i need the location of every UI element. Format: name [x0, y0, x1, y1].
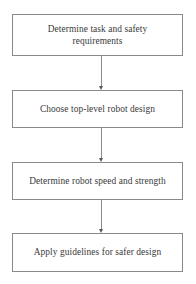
- flowchart-node-apply-guidelines-for-safer-design: Apply guidelines for safer design: [12, 233, 183, 272]
- flowchart-node-label: Determine robot speed and strength: [24, 175, 171, 187]
- connector-line: [101, 200, 102, 229]
- flowchart-connector-arrow-2: [97, 128, 106, 162]
- flowchart-node-label: Choose top-level robot design: [35, 103, 160, 115]
- flowchart-node-determine-task-and-safety-requirements: Determine task and safety requirements: [12, 14, 183, 56]
- flowchart-connector-arrow-3: [97, 200, 106, 233]
- connector-line: [101, 128, 102, 158]
- connector-line: [101, 56, 102, 86]
- flowchart-node-label: Determine task and safety requirements: [43, 23, 153, 48]
- flowchart-connector-arrow-1: [97, 56, 106, 90]
- flowchart-node-choose-top-level-robot-design: Choose top-level robot design: [12, 90, 183, 128]
- flowchart-diagram: Determine task and safety requirements C…: [0, 0, 196, 284]
- flowchart-node-determine-robot-speed-and-strength: Determine robot speed and strength: [12, 162, 183, 200]
- flowchart-node-label: Apply guidelines for safer design: [29, 246, 167, 258]
